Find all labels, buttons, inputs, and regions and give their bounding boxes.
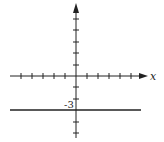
x-axis-label: x <box>150 70 157 83</box>
graph: -3 x <box>0 0 164 142</box>
y-intercept-label: -3 <box>64 99 74 110</box>
y-axis-arrow-icon <box>73 3 79 13</box>
x-axis-arrow-icon <box>139 73 148 79</box>
